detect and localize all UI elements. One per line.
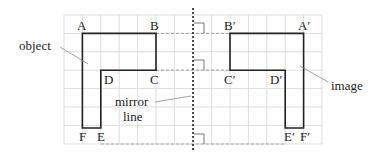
label-F-prime: F′ [300,129,310,144]
label-E-prime: E′ [284,129,295,144]
label-D: D [104,72,113,87]
label-C: C [150,72,159,87]
label-C-prime: C′ [224,72,236,87]
label-D-prime: D′ [270,72,282,87]
label-F: F [79,129,86,144]
object-label: object [19,38,51,53]
reflection-diagram: A B C D E F A′ B′ C′ D′ E′ F′ object ima… [0,0,383,156]
label-B-prime: B′ [224,18,236,33]
image-label: image [331,78,363,93]
right-angle-markers [194,23,204,144]
mirror-line-label-1: mirror [115,94,149,109]
label-E: E [97,129,105,144]
mirror-line-label-2: line [123,109,143,124]
label-B: B [150,18,159,33]
label-A-prime: A′ [298,18,310,33]
label-A: A [77,18,87,33]
